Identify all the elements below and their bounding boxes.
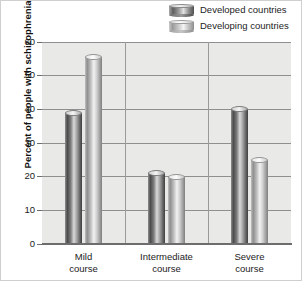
bar-developed-countries-0 [65, 113, 82, 244]
y-axis-tick-label: 60 [11, 37, 35, 47]
x-axis-category-line: Mild [42, 251, 125, 263]
cylinder-dark-icon [169, 4, 194, 16]
x-axis-line [42, 243, 292, 245]
x-axis-category-label: Severecourse [208, 251, 291, 274]
y-axis-tick [37, 109, 42, 110]
gridline-horizontal [42, 42, 291, 43]
y-axis-title: Percent of people with schizophrenia [22, 0, 33, 175]
y-axis-tick-label: 0 [11, 239, 35, 249]
bar-developing-countries-2 [251, 160, 268, 244]
bar-shaft [168, 177, 185, 244]
x-axis-category-line: Intermediate [125, 251, 208, 263]
x-axis-category-line: course [208, 263, 291, 275]
legend-item-developing[interactable]: Developing countries [169, 19, 289, 32]
legend-label-developed: Developed countries [200, 5, 287, 15]
plot-area [42, 42, 291, 244]
bar-top-ellipse [168, 174, 185, 180]
bar-shaft [65, 113, 82, 244]
bar-top-ellipse [65, 110, 82, 116]
x-axis-category-label: Mildcourse [42, 251, 125, 274]
y-axis-tick [37, 143, 42, 144]
y-axis-tick [37, 75, 42, 76]
cylinder-light-icon [169, 20, 194, 32]
bar-developing-countries-0 [85, 57, 102, 244]
chart-figure: Developed countries Developing countries… [1, 1, 301, 280]
bar-shaft [251, 160, 268, 244]
legend-label-developing: Developing countries [200, 21, 289, 31]
y-axis-tick [37, 210, 42, 211]
bar-shaft [85, 57, 102, 244]
gridline-horizontal [42, 109, 291, 110]
gridline-vertical [208, 42, 209, 244]
x-axis-category-label: Intermediatecourse [125, 251, 208, 274]
y-axis-tick-label: 10 [11, 205, 35, 215]
bar-shaft [148, 173, 165, 244]
x-axis-category-line: course [42, 263, 125, 275]
y-axis-tick-label: 20 [11, 171, 35, 181]
legend-item-developed[interactable]: Developed countries [169, 3, 289, 16]
y-axis-tick [37, 42, 42, 43]
bar-top-ellipse [251, 157, 268, 163]
gridline-horizontal [42, 75, 291, 76]
y-axis-tick-label: 30 [11, 138, 35, 148]
x-axis-labels: MildcourseIntermediatecourseSeverecourse [42, 247, 292, 281]
bar-developing-countries-1 [168, 177, 185, 244]
chart-legend: Developed countries Developing countries [169, 3, 289, 32]
y-axis-tick-label: 50 [11, 70, 35, 80]
y-axis-tick [37, 244, 42, 245]
y-axis-tick-label: 40 [11, 104, 35, 114]
x-axis-category-line: Severe [208, 251, 291, 263]
gridline-vertical [125, 42, 126, 244]
bar-shaft [231, 109, 248, 244]
y-axis-tick [37, 176, 42, 177]
bar-developed-countries-1 [148, 173, 165, 244]
x-axis-category-line: course [125, 263, 208, 275]
bar-developed-countries-2 [231, 109, 248, 244]
